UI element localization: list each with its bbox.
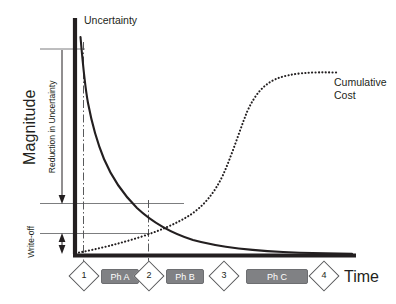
phase-box-b[interactable]: Ph B: [166, 269, 204, 284]
write-off-label: Write-off: [27, 220, 37, 264]
uncertainty-vs-cost-diagram: Magnitude Time Reduction in Uncertainty …: [0, 0, 396, 304]
cumulative-cost-line-2: Cost: [334, 89, 356, 101]
gate-label-1: 1: [73, 270, 95, 280]
reduction-in-uncertainty-label: Reduction in Uncertainty: [48, 67, 58, 187]
gate-label-4: 4: [313, 270, 335, 280]
reduction-in-uncertainty-arrow: [59, 50, 66, 204]
uncertainty-curve: [81, 37, 353, 254]
gate-label-2: 2: [138, 270, 160, 280]
write-off-arrow: [59, 233, 66, 254]
cumulative-cost-series-label: CumulativeCost: [334, 76, 387, 102]
cumulative-cost-line-1: Cumulative: [334, 76, 387, 88]
cumulative-cost-curve: [79, 72, 337, 252]
y-axis-title: Magnitude: [21, 67, 39, 187]
plot-canvas: [0, 0, 396, 304]
phase-box-c[interactable]: Ph C: [246, 269, 308, 284]
x-axis-title: Time: [344, 268, 379, 286]
gate-label-3: 3: [213, 270, 235, 280]
uncertainty-series-label: Uncertainty: [84, 14, 137, 26]
